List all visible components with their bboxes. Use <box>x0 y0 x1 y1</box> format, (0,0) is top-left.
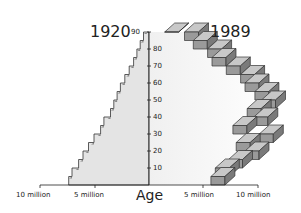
axis-title-age: Age <box>136 187 163 203</box>
age-tick-70: 70 <box>153 62 162 70</box>
x-tick-right-5m: 5 million <box>184 191 214 199</box>
x-tick-left-10m: 10 million <box>16 191 50 199</box>
age-tick-80: 80 <box>153 45 162 53</box>
year-label-1989: 1989 <box>210 22 251 41</box>
age-tick-30: 30 <box>153 130 162 138</box>
age-tick-20: 20 <box>153 147 162 155</box>
x-tick-left-5m: 5 million <box>74 191 104 199</box>
age-tick-60: 60 <box>153 79 162 87</box>
series-1920-area <box>69 32 149 185</box>
population-chart <box>0 0 301 213</box>
series-1989-area <box>149 23 286 185</box>
age-tick-40: 40 <box>153 113 162 121</box>
year-label-1920: 1920 <box>90 22 131 41</box>
age-tick-10: 10 <box>153 164 162 172</box>
x-tick-right-10m: 10 million <box>236 191 270 199</box>
age-tick-90: 90 <box>131 28 140 36</box>
age-tick-50: 50 <box>153 96 162 104</box>
